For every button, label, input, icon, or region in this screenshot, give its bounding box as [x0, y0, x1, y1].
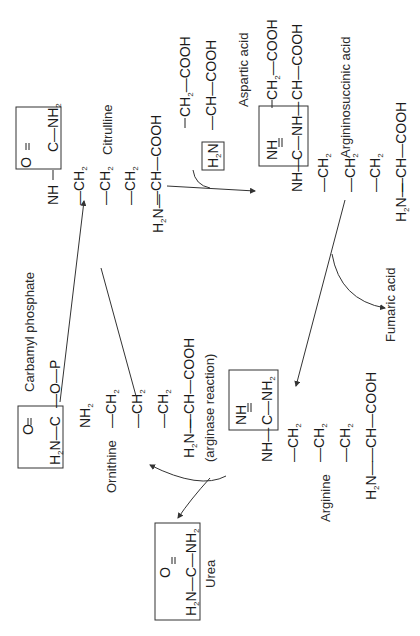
svg-text:CH2—COOH: CH2—COOH [264, 19, 282, 100]
svg-text:—CH2: —CH2 [311, 423, 329, 462]
arrow-arginine-to-ornithine [150, 465, 226, 481]
svg-text:—CH—COOH: —CH—COOH [148, 115, 164, 205]
svg-text:—CH2: —CH2 [122, 166, 140, 205]
svg-text:—CH2: —CH2 [129, 389, 147, 428]
svg-text:NH: NH [233, 405, 249, 425]
svg-text:H2N—C—NH2: H2N—C—NH2 [183, 528, 201, 616]
svg-text:O: O [157, 567, 173, 578]
svg-text:H2N—: H2N— [150, 194, 168, 233]
svg-text:—CH2: —CH2 [315, 153, 333, 192]
line-ornithine-to-citrulline [101, 268, 136, 396]
svg-text:—CH2: —CH2 [103, 389, 121, 428]
svg-text:—CH2: —CH2 [337, 423, 355, 462]
urea-structure: O H2N—C—NH2 Urea [155, 523, 218, 620]
citrulline-box-C-NH2: C—NH2 [45, 103, 63, 152]
label-ornithine: Ornithine [104, 440, 119, 493]
arginine-structure: NH C—NH2 NH— —CH2 —CH2 —CH2 —CH—COOH H2N… [229, 370, 381, 522]
aspartic-acid-structure: CH2—COOH —CH—COOH H2N Aspartic acid [177, 33, 251, 170]
svg-text:CH2—COOH: CH2—COOH [177, 36, 195, 117]
label-arginase-reaction: (arginase reaction) [202, 354, 217, 462]
svg-text:—CH—COOH: —CH—COOH [363, 372, 379, 462]
svg-text:—CH—COOH: —CH—COOH [393, 102, 409, 192]
svg-text:NH2: NH2 [77, 403, 95, 428]
svg-text:—CH—COOH: —CH—COOH [181, 338, 197, 428]
svg-text:C—NH2: C—NH2 [259, 376, 277, 425]
label-argininosuccinic-acid: Argininosuccinic acid [338, 37, 353, 158]
svg-text:C—NH—: C—NH— [289, 102, 305, 160]
label-aspartic-acid: Aspartic acid [236, 33, 251, 107]
arrow-citrulline-to-argininosuccinate [167, 186, 255, 191]
svg-text:NH—: NH— [289, 158, 305, 192]
label-citrulline: Citrulline [100, 104, 115, 155]
arrow-urea-out [178, 478, 210, 518]
carbamyl-phosphate-structure: O H2N—C —O—P Carbamyl phosphate [18, 272, 65, 468]
label-carbamyl-phosphate: Carbamyl phosphate [22, 272, 37, 392]
svg-text:CH—COOH: CH—COOH [289, 24, 305, 100]
svg-text:—CH2: —CH2 [367, 153, 385, 192]
svg-text:—CH2: —CH2 [71, 166, 89, 205]
svg-text:H2N—: H2N— [393, 183, 411, 222]
svg-text:O: O [20, 424, 36, 435]
svg-text:—CH2: —CH2 [155, 389, 173, 428]
svg-text:H2N—: H2N— [363, 461, 381, 500]
svg-text:H2N: H2N [205, 143, 223, 168]
svg-text:NH: NH [264, 140, 280, 160]
label-urea: Urea [203, 559, 218, 588]
urea-cycle-diagram: O C—NH2 NH —CH2 —CH2 —CH2 —CH—COOH H2N— … [0, 0, 420, 636]
svg-text:H2N—C: H2N—C [47, 416, 65, 465]
citrulline-structure: O C—NH2 NH —CH2 —CH2 —CH2 —CH—COOH H2N— … [16, 103, 168, 233]
svg-text:H2N—: H2N— [181, 419, 199, 458]
ornithine-structure: NH2 —CH2 —CH2 —CH2 —CH—COOH H2N— Ornithi… [77, 338, 217, 493]
citrulline-chain-NH: NH [45, 185, 61, 205]
label-fumaric-acid: Fumaric acid [383, 268, 398, 342]
arrow-argininosuccinate-to-arginine [296, 200, 345, 386]
label-arginine: Arginine [318, 474, 333, 522]
svg-text:—CH2: —CH2 [97, 166, 115, 205]
arrow-fumaric-acid-out [332, 254, 385, 308]
curve-aspartate-in [193, 170, 210, 188]
citrulline-box-O: O [18, 157, 34, 168]
svg-text:NH—: NH— [259, 428, 275, 462]
argininosuccinic-acid-structure: CH2—COOH CH—COOH NH C—NH— NH— —CH2 —CH2 … [259, 19, 411, 222]
svg-text:—CH2: —CH2 [285, 423, 303, 462]
svg-text:—CH—COOH: —CH—COOH [203, 40, 219, 130]
arrow-carbamyl-to-citrulline [60, 201, 84, 402]
